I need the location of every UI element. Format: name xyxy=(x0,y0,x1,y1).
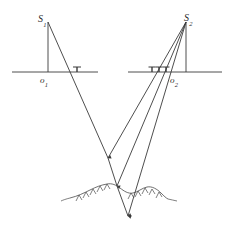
terrain-tail-left xyxy=(61,198,70,201)
ray-middle-to-lower xyxy=(117,186,128,216)
ray-right-to-ground-lower xyxy=(128,22,186,216)
label-principal-right-sub: 2 xyxy=(175,81,178,88)
ray-right-to-ground-middle xyxy=(117,22,186,186)
label-station-left: S1 xyxy=(38,14,46,27)
label-principal-left: o1 xyxy=(40,76,48,87)
label-principal-right: o2 xyxy=(170,76,178,87)
label-station-right: S2 xyxy=(184,13,192,26)
terrain-hachures-left xyxy=(76,184,110,201)
label-principal-right-base: o xyxy=(170,75,175,85)
label-station-right-sub: 2 xyxy=(189,20,192,27)
diagram-canvas xyxy=(0,0,228,235)
terrain-tail-right xyxy=(168,199,177,201)
label-station-left-sub: 1 xyxy=(43,21,46,28)
ray-left-to-ground-upper xyxy=(48,22,108,158)
label-principal-left-base: o xyxy=(40,75,45,85)
label-principal-left-sub: 1 xyxy=(45,81,48,88)
ray-upper-to-middle xyxy=(108,158,117,186)
ray-diagram-figure: S1 S2 o1 o2 xyxy=(0,0,228,235)
ray-right-to-ground-upper xyxy=(108,22,186,158)
